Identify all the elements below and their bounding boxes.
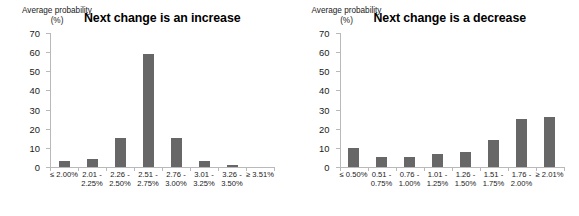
y-tick-label-20: 20 xyxy=(30,123,40,134)
bar-slot xyxy=(424,33,452,167)
bar xyxy=(516,119,527,167)
two-panel-bar-chart-figure: Average probability (%) Next change is a… xyxy=(0,0,579,216)
y-tick-label-60: 60 xyxy=(30,47,40,58)
bar-slot xyxy=(246,33,274,167)
y-tick-label-50: 50 xyxy=(319,66,329,77)
y-tick-label-10: 10 xyxy=(30,142,40,153)
bar-slot xyxy=(480,33,508,167)
bar xyxy=(460,152,471,167)
y-tick-label-30: 30 xyxy=(319,104,329,115)
y-tick-label-40: 40 xyxy=(30,85,40,96)
y-tick-label-20: 20 xyxy=(319,123,329,134)
y-tick-label-60: 60 xyxy=(319,47,329,58)
x-tick-label: ≥ 3.51% xyxy=(242,170,278,179)
bar xyxy=(87,159,98,167)
bar-slot xyxy=(162,33,190,167)
y-tick-label-30: 30 xyxy=(30,104,40,115)
bar xyxy=(59,161,70,167)
bar xyxy=(488,140,499,167)
y-tick-label-40: 40 xyxy=(319,85,329,96)
bar-slot xyxy=(106,33,134,167)
bar-slot xyxy=(396,33,424,167)
y-tick-label-10: 10 xyxy=(319,142,329,153)
bar-slot xyxy=(368,33,396,167)
bar xyxy=(432,154,443,167)
bar-group-decrease xyxy=(340,33,564,167)
bar-slot xyxy=(508,33,536,167)
plot-area-decrease: 010203040506070 xyxy=(340,33,564,167)
bar-slot xyxy=(452,33,480,167)
chart-panel-increase: Average probability (%) Next change is a… xyxy=(0,0,290,216)
bar-slot xyxy=(340,33,368,167)
y-tick-label-0: 0 xyxy=(35,162,40,173)
bar-slot xyxy=(536,33,564,167)
plot-area-increase: 010203040506070 xyxy=(50,33,274,167)
x-tick-label: ≥ 2.01% xyxy=(532,170,568,179)
bar xyxy=(376,157,387,167)
y-tick-label-70: 70 xyxy=(319,28,329,39)
chart-panel-decrease: Average probability (%) Next change is a… xyxy=(290,0,579,216)
bar xyxy=(404,157,415,167)
x-tick-labels-increase: ≤ 2.00%2.01 - 2.25%2.26 - 2.50%2.51 - 2.… xyxy=(50,170,274,200)
y-tick-label-70: 70 xyxy=(30,28,40,39)
chart-title-increase: Next change is an increase xyxy=(84,11,241,25)
chart-title-decrease: Next change is a decrease xyxy=(374,11,526,25)
bar xyxy=(544,117,555,167)
bar-slot xyxy=(134,33,162,167)
bar-slot xyxy=(78,33,106,167)
bar xyxy=(199,161,210,167)
bar-slot xyxy=(50,33,78,167)
bar xyxy=(348,148,359,167)
y-tick-label-0: 0 xyxy=(324,162,329,173)
bar-group-increase xyxy=(50,33,274,167)
bar xyxy=(227,165,238,167)
bar xyxy=(171,138,182,167)
bar-slot xyxy=(218,33,246,167)
bar-slot xyxy=(190,33,218,167)
bar xyxy=(115,138,126,167)
x-tick-labels-decrease: ≤ 0.50%0.51 - 0.75%0.76 - 1.00%1.01 - 1.… xyxy=(340,170,564,200)
y-tick-label-50: 50 xyxy=(30,66,40,77)
bar xyxy=(143,54,154,167)
